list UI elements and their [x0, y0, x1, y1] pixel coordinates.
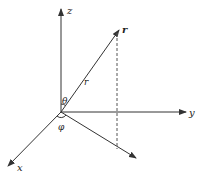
- x-axis-label: x: [17, 162, 23, 173]
- xy-projection: [61, 112, 136, 158]
- spherical-coordinate-diagram: z y x r r θ φ: [0, 0, 198, 185]
- theta-label: θ: [62, 96, 68, 106]
- theta-angle: θ: [61, 96, 68, 106]
- phi-angle: φ: [57, 115, 66, 132]
- vector-tip-label: r: [122, 24, 128, 35]
- y-axis: y: [61, 107, 195, 118]
- y-axis-label: y: [188, 107, 195, 118]
- z-axis-label: z: [66, 5, 73, 16]
- vector-length-label: r: [84, 77, 89, 87]
- x-axis: x: [8, 112, 61, 173]
- position-vector: r r: [61, 24, 128, 112]
- phi-label: φ: [58, 122, 65, 132]
